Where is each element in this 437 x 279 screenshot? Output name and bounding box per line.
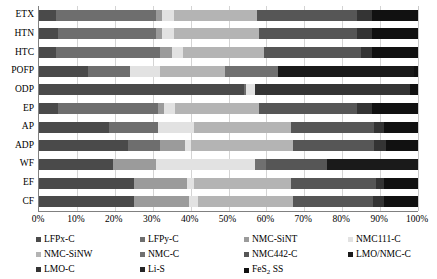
x-tick-50: 50% (219, 213, 236, 225)
bar-row-wf (39, 159, 418, 170)
y-axis-label-wf: WF (0, 159, 34, 169)
y-axis-category-labels: ETXHTNHTCPOFPODPEPAPADPWFEFCF (0, 6, 34, 211)
bar-segment-fes2-ss (372, 47, 417, 58)
bar-segment-lfpy-c (88, 66, 130, 77)
bar-segment-lmo-c (376, 178, 384, 189)
x-tick-20: 20% (105, 213, 122, 225)
legend-swatch-icon (348, 252, 353, 257)
bar-row-ep (39, 103, 418, 114)
legend-label: NMC442-C (252, 249, 297, 260)
bar-segment-nmc111-c (130, 66, 160, 77)
bar-segment-nmc-sinw (175, 103, 258, 114)
stacked-bar-chart: ETXHTNHTCPOFPODPEPAPADPWFEFCF 0%10%20%30… (0, 0, 437, 279)
y-axis-label-htn: HTN (0, 29, 34, 39)
bar-row-adp (39, 140, 418, 151)
legend-item-fes2-ss[interactable]: FeS2 SS (244, 264, 283, 276)
legend-label: NMC111-C (356, 234, 401, 245)
legend-label: NMC-C (148, 249, 179, 260)
bar-segment-nmc111-c (172, 47, 183, 58)
bar-segment-lfpx-c (39, 10, 56, 21)
legend-item-nmc111-c[interactable]: NMC111-C (348, 234, 401, 245)
bar-segment-lfpy-c (109, 122, 158, 133)
legend-swatch-icon (36, 252, 41, 257)
bar-segment-lfpx-c (39, 159, 113, 170)
bar-segment-lfpy-c (56, 10, 156, 21)
y-axis-label-cf: CF (0, 197, 34, 207)
legend-swatch-icon (140, 252, 145, 257)
legend-item-nmc442-c[interactable]: NMC442-C (244, 249, 297, 260)
legend-item-lfpx-c[interactable]: LFPx-C (36, 234, 75, 245)
bar-segment-nmc111-c (158, 122, 194, 133)
legend-label: NMC-SiNW (44, 249, 93, 260)
bar-segment-lfpy-c (56, 47, 160, 58)
bar-segment-nmc111-c (164, 103, 175, 114)
legend-item-lfpy-c[interactable]: LFPy-C (140, 234, 179, 245)
bar-segment-nmc-sinw (174, 28, 259, 39)
y-axis-label-etx: ETX (0, 10, 34, 20)
bar-segment-lmo-c (255, 84, 410, 95)
bar-row-htn (39, 28, 418, 39)
stacked-bar (39, 47, 418, 58)
bar-segment-nmc-sint (113, 159, 157, 170)
bar-segment-lmo-nmc-c (278, 66, 414, 77)
x-tick-70: 70% (295, 213, 312, 225)
x-tick-80: 80% (332, 213, 349, 225)
legend-item-li-s[interactable]: Li-S (140, 264, 165, 275)
y-axis-label-htc: HTC (0, 48, 34, 58)
bar-segment-fes2-ss (386, 140, 418, 151)
stacked-bar (39, 122, 418, 133)
legend-label: NMC-SiNT (252, 234, 297, 245)
bar-segment-nmc-sinw (198, 196, 293, 207)
bar-segment-nmc442-c (259, 28, 358, 39)
y-axis-label-ap: AP (0, 122, 34, 132)
bar-segment-fes2-ss (414, 66, 418, 77)
stacked-bar (39, 103, 418, 114)
bar-segment-nmc442-c (291, 178, 376, 189)
plot-area (38, 6, 419, 211)
legend-item-nmc-sinw[interactable]: NMC-SiNW (36, 249, 93, 260)
x-tick-60: 60% (257, 213, 274, 225)
x-axis-tick-labels: 0%10%20%30%40%50%60%70%80%90%100% (0, 213, 437, 229)
legend-swatch-icon (36, 237, 41, 242)
x-tick-100: 100% (406, 213, 428, 225)
x-axis-line (38, 211, 418, 212)
plot-wrapper: ETXHTNHTCPOFPODPEPAPADPWFEFCF (0, 0, 437, 216)
y-axis-label-pofp: POFP (0, 66, 34, 76)
bar-segment-nmc111-c (246, 84, 255, 95)
legend-item-lmo-c[interactable]: LMO-C (36, 264, 75, 275)
bar-row-ef (39, 178, 418, 189)
bar-segment-lmo-c (373, 196, 384, 207)
gridline-100 (418, 6, 419, 211)
bar-segment-lfpy-c (58, 28, 157, 39)
stacked-bar (39, 159, 418, 170)
y-axis-label-adp: ADP (0, 141, 34, 151)
bar-segment-lfpx-c (39, 196, 134, 207)
bar-segment-lfpx-c (39, 47, 56, 58)
bar-segment-fes2-ss (410, 84, 418, 95)
legend-swatch-icon (348, 237, 353, 242)
legend-item-lmo-nmc-c[interactable]: LMO/NMC-C (348, 249, 411, 260)
bar-segment-fes2-ss (372, 10, 417, 21)
stacked-bar (39, 66, 418, 77)
bar-row-cf (39, 196, 418, 207)
bar-segment-nmc442-c (264, 47, 361, 58)
x-tick-40: 40% (181, 213, 198, 225)
legend-swatch-icon (244, 237, 249, 242)
legend-item-nmc-c[interactable]: NMC-C (140, 249, 179, 260)
bar-segment-lmo-c (357, 103, 372, 114)
legend-item-nmc-sint[interactable]: NMC-SiNT (244, 234, 297, 245)
y-axis-label-odp: ODP (0, 85, 34, 95)
x-tick-10: 10% (67, 213, 84, 225)
bar-row-etx (39, 10, 418, 21)
bar-segment-nmc-sinw (194, 122, 291, 133)
legend-swatch-icon (36, 267, 41, 272)
stacked-bar (39, 10, 418, 21)
legend-label: LFPx-C (44, 234, 75, 245)
bar-segment-lmo-c (357, 28, 372, 39)
stacked-bar (39, 28, 418, 39)
bar-segment-nmc442-c (293, 140, 374, 151)
bar-segment-nmc-sinw (191, 140, 293, 151)
bar-segment-lmo-nmc-c (327, 159, 418, 170)
bar-segment-nmc442-c (257, 10, 357, 21)
bar-row-htc (39, 47, 418, 58)
